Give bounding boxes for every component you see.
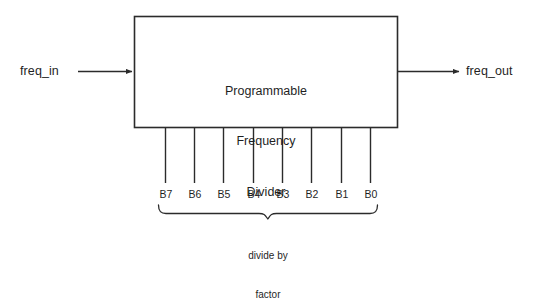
divide-by-factor-caption: divide by factor — [208, 223, 328, 302]
freq-out-label: freq_out — [466, 64, 513, 79]
divider-block-title-line-2: Frequency — [134, 133, 398, 150]
bit-label-b2: B2 — [301, 188, 323, 200]
bit-label-b5: B5 — [213, 188, 235, 200]
bit-label-b6: B6 — [184, 188, 206, 200]
bit-label-b1: B1 — [331, 188, 353, 200]
bit-label-b0: B0 — [360, 188, 382, 200]
divide-by-factor-caption-line-1: divide by — [208, 249, 328, 262]
bit-label-b3: B3 — [272, 188, 294, 200]
freq-in-label: freq_in — [20, 64, 59, 79]
bit-label-b4: B4 — [243, 188, 265, 200]
divide-by-factor-caption-line-2: factor — [208, 288, 328, 301]
bit-label-b7: B7 — [155, 188, 177, 200]
divider-block-title-line-1: Programmable — [134, 83, 398, 100]
divider-block-title: Programmable Frequency Divider — [134, 49, 398, 235]
